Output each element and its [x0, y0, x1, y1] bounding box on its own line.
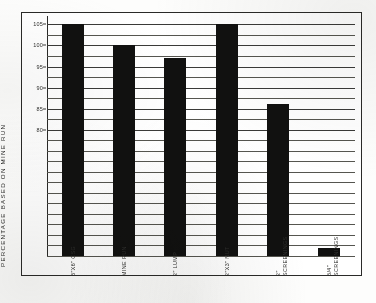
gridline-minor: [47, 182, 355, 183]
gridline-minor: [47, 140, 355, 141]
gridline-minor: [47, 56, 355, 57]
gridline-minor: [47, 245, 355, 246]
category-label-line: 2"X3" NUT: [224, 246, 230, 276]
x-axis-category-label: 2" LUMP: [172, 252, 179, 276]
category-label-line: 3/4": [326, 265, 332, 276]
gridline-minor: [47, 214, 355, 215]
bar: [164, 58, 186, 256]
plot-area: 105100959085803"X6" CSGMINE RUN2" LUMP2"…: [47, 16, 355, 256]
y-tick-mark: [43, 129, 46, 130]
x-axis-category-label: 3/4"SCREENINGS: [326, 236, 340, 276]
gridline-major: [47, 67, 355, 68]
gridline-minor: [47, 193, 355, 194]
gridline-major: [47, 109, 355, 110]
gridline-minor: [47, 224, 355, 225]
x-axis-category-label: 2"X3" NUT: [224, 246, 231, 276]
gridline-minor: [47, 98, 355, 99]
category-label-line: 2": [275, 270, 281, 276]
category-label-line: SCREENINGS: [333, 236, 340, 276]
x-axis-category-label: MINE RUN: [121, 246, 128, 276]
y-axis-title: PERCENTAGE BASED ON MINE RUN: [0, 124, 6, 267]
gridline-minor: [47, 35, 355, 36]
y-tick-mark: [43, 45, 46, 46]
bar: [267, 104, 289, 256]
y-tick-label: 100: [33, 42, 43, 48]
gridline-minor: [47, 161, 355, 162]
gridline-minor: [47, 172, 355, 173]
x-axis-category-label: 3"X6" CSG: [70, 246, 77, 276]
x-axis-category-label: 2"SCREENINGS: [275, 236, 289, 276]
gridline-minor: [47, 256, 355, 257]
gridline-minor: [47, 203, 355, 204]
bar: [216, 24, 238, 256]
gridline-minor: [47, 119, 355, 120]
y-tick-mark: [43, 87, 46, 88]
category-label-line: MINE RUN: [121, 246, 127, 276]
gridline-minor: [47, 77, 355, 78]
gridline-major: [47, 24, 355, 25]
y-tick-label: 105: [33, 21, 43, 27]
category-label-line: SCREENINGS: [282, 236, 289, 276]
y-tick-mark: [43, 24, 46, 25]
y-tick-mark: [43, 108, 46, 109]
bar: [113, 45, 135, 256]
gridline-major: [47, 45, 355, 46]
gridline-minor: [47, 235, 355, 236]
gridline-major: [47, 88, 355, 89]
figure-canvas: PERCENTAGE BASED ON MINE RUN 10510095908…: [0, 0, 376, 303]
bar: [62, 24, 84, 256]
gridline-minor: [47, 151, 355, 152]
category-label-line: 3"X6" CSG: [70, 246, 76, 276]
y-tick-mark: [43, 66, 46, 67]
category-label-line: 2" LUMP: [172, 252, 178, 276]
gridline-major: [47, 130, 355, 131]
